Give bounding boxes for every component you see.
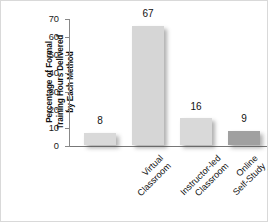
- y-tick-20: 20: [65, 110, 70, 111]
- y-tick-50: 50: [65, 55, 70, 56]
- y-tick-70: 70: [65, 19, 70, 20]
- plot-area: 70 60 50 40 30 20 10 0: [69, 19, 261, 146]
- bar-online-self-study[interactable]: [179, 117, 213, 146]
- y-tick-label-10: 10: [49, 128, 59, 129]
- bar-chart-figure: Percentage of Formal Training Hours Deli…: [0, 0, 268, 222]
- bar-value-label-instructor-led-classroom: 67: [131, 8, 165, 19]
- y-tick-label-30: 30: [49, 92, 59, 93]
- bar-fill-online-self-study: [180, 118, 212, 145]
- y-axis-title-line-1: Percentage of Formal: [45, 7, 56, 157]
- bar-value-label-other: 9: [227, 113, 261, 124]
- x-label-online-self-study: Online Self-Study: [223, 153, 268, 198]
- bar-fill-other: [228, 131, 260, 145]
- y-tick-0: 0: [65, 146, 70, 147]
- x-label-instructor-led-classroom: Instructor-led Classroom: [178, 153, 231, 206]
- y-tick-40: 40: [65, 73, 70, 74]
- x-label-virtual-classroom: Virtual Classroom: [128, 153, 174, 199]
- y-tick-30: 30: [65, 92, 70, 93]
- bar-value-label-online-self-study: 16: [179, 101, 213, 112]
- bar-instructor-led-classroom[interactable]: [131, 25, 165, 147]
- y-axis-title-line-2: Training Hours Delivered: [56, 7, 67, 157]
- y-axis-title-container: Percentage of Formal Training Hours Deli…: [1, 1, 47, 161]
- bar-other[interactable]: [227, 130, 261, 146]
- y-tick-60: 60: [65, 37, 70, 38]
- x-axis-labels: Virtual Classroom Instructor-led Classro…: [69, 149, 268, 222]
- bar-value-label-virtual-classroom: 8: [83, 115, 117, 126]
- y-tick-label-60: 60: [49, 37, 59, 38]
- y-tick-label-40: 40: [49, 73, 59, 74]
- bar-fill-instructor-led-classroom: [132, 26, 164, 146]
- bar-virtual-classroom[interactable]: [83, 132, 117, 147]
- x-axis-line: [69, 146, 267, 147]
- y-tick-label-50: 50: [49, 55, 59, 56]
- bar-fill-virtual-classroom: [84, 133, 116, 146]
- y-tick-label-70: 70: [49, 19, 59, 20]
- y-tick-label-0: 0: [54, 146, 59, 147]
- y-tick-10: 10: [65, 128, 70, 129]
- y-tick-label-20: 20: [49, 110, 59, 111]
